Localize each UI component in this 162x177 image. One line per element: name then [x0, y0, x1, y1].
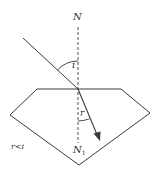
- incident-ray: [23, 38, 78, 89]
- normal-label-bottom: N1: [72, 144, 86, 156]
- relation-label: r<i: [11, 142, 25, 151]
- normal-label-top: N: [72, 11, 83, 22]
- refraction-angle-arc: [78, 119, 90, 121]
- refraction-angle-label: r: [80, 108, 85, 118]
- incidence-angle-label: i: [72, 59, 75, 70]
- normal-label-bottom-subscript: 1: [82, 149, 86, 156]
- refraction-diagram: N i r N1 r<i: [0, 0, 162, 177]
- arrowhead-icon: [94, 132, 101, 142]
